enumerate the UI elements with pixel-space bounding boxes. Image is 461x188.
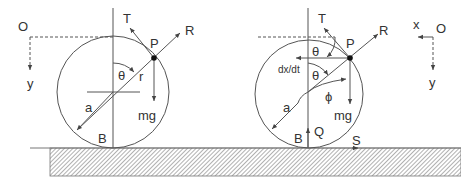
right-label-mg: mg — [334, 108, 352, 123]
right-label-B: B — [294, 131, 303, 146]
right-label-x: x — [413, 17, 420, 32]
right-label-R: R — [379, 23, 388, 38]
right-label-T: T — [318, 11, 326, 26]
left-label-mg: mg — [138, 108, 156, 123]
left-label-O: O — [18, 19, 28, 34]
left-label-T: T — [123, 11, 131, 26]
left-labels: O y T R P θ r a mg B — [18, 11, 194, 146]
left-diagram — [30, 8, 180, 148]
left-label-r: r — [139, 69, 144, 84]
hatched-block-left — [50, 148, 461, 176]
right-disc — [255, 40, 363, 148]
left-label-R: R — [185, 23, 194, 38]
right-label-dxdt: dx/dt — [278, 64, 300, 75]
right-diagram — [255, 8, 433, 148]
left-label-y: y — [27, 76, 34, 91]
left-label-B: B — [98, 131, 107, 146]
left-radius-line — [77, 33, 180, 130]
left-label-P: P — [150, 36, 159, 51]
right-point-P — [347, 55, 353, 61]
left-label-a: a — [85, 100, 93, 115]
right-labels: T R P θ θ dx/dt ϕ a mg B Q S x O y — [278, 11, 446, 148]
right-radius-line — [308, 34, 378, 92]
right-label-S: S — [352, 133, 361, 148]
left-origin-dashed — [30, 37, 113, 70]
right-label-Q: Q — [314, 124, 324, 139]
right-label-theta-top: θ — [312, 44, 319, 59]
right-label-P: P — [346, 36, 355, 51]
right-label-a: a — [283, 100, 291, 115]
left-label-theta: θ — [118, 68, 125, 83]
physics-diagram: O y T R P θ r a mg B T R P θ θ dx/dt ϕ — [0, 0, 461, 188]
right-label-phi: ϕ — [325, 89, 332, 104]
right-label-O: O — [436, 21, 446, 36]
left-a-arrow — [77, 92, 113, 130]
right-label-y: y — [429, 75, 436, 90]
ground — [30, 148, 461, 176]
right-label-theta-mid: θ — [312, 68, 319, 83]
left-point-P — [151, 55, 157, 61]
